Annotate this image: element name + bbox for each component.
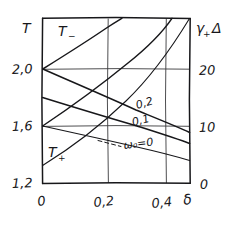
bottom-tick-label-0-4: 0,4 xyxy=(151,194,173,211)
right-axis-ticks: 20 10 0 xyxy=(199,62,216,192)
gamma-curve-lower xyxy=(43,19,190,166)
frame-bottom-edge xyxy=(43,183,191,184)
frame-top-edge xyxy=(43,18,191,19)
bottom-axis-title: δ xyxy=(182,191,193,208)
right-tick-label-20: 20 xyxy=(199,62,216,78)
right-axis-title: γ + Δ xyxy=(196,20,222,39)
right-axis-title-delta: Δ xyxy=(211,20,222,36)
gridline-y-2-0 xyxy=(43,69,191,70)
left-axis-ticks: 2,0 1,6 1,2 xyxy=(12,61,33,191)
plot-figure: 2,0 1,6 1,2 T 20 10 0 γ + Δ 0 0,2 0,4 δ … xyxy=(0,0,239,231)
gamma-curve-upper xyxy=(43,18,122,69)
t-plus-letter: T xyxy=(48,144,58,160)
t-plus-subscript: + xyxy=(58,153,66,163)
curve-label-0-1: 0,1 xyxy=(131,112,151,129)
region-label-t-minus: T − xyxy=(58,23,76,41)
t-minus-subscript: − xyxy=(68,31,76,41)
t-curve-0-1 xyxy=(43,98,190,144)
frame-right-axis xyxy=(189,18,190,183)
left-axis-title: T xyxy=(22,20,32,36)
bottom-tick-label-0: 0 xyxy=(36,193,46,209)
gamma-delta-curves xyxy=(43,18,190,165)
bottom-tick-label-0-2: 0,2 xyxy=(93,193,115,210)
curve-label-0-2: 0,2 xyxy=(134,95,154,112)
bottom-axis-ticks: 0 0,2 0,4 xyxy=(36,193,173,211)
left-tick-label-1-6: 1,6 xyxy=(12,118,33,134)
t-curve-0-2 xyxy=(43,69,190,133)
right-tick-label-10: 10 xyxy=(199,119,216,135)
gridline-y-1-6 xyxy=(42,126,190,127)
omega0-leader-stroke xyxy=(98,141,121,147)
omega0-leader-line xyxy=(98,141,121,147)
t-curves xyxy=(43,69,190,161)
t-minus-letter: T xyxy=(58,23,68,39)
right-axis-title-subscript: + xyxy=(203,29,211,39)
gridline-x-0-4 xyxy=(166,19,167,184)
gridline-x-0-2 xyxy=(107,19,108,183)
left-tick-label-2-0: 2,0 xyxy=(12,61,33,77)
right-tick-label-0: 0 xyxy=(200,177,209,192)
left-tick-label-1-2: 1,2 xyxy=(12,175,33,191)
frame-left-axis xyxy=(42,18,43,183)
figure-canvas: 2,0 1,6 1,2 T 20 10 0 γ + Δ 0 0,2 0,4 δ … xyxy=(0,0,239,231)
